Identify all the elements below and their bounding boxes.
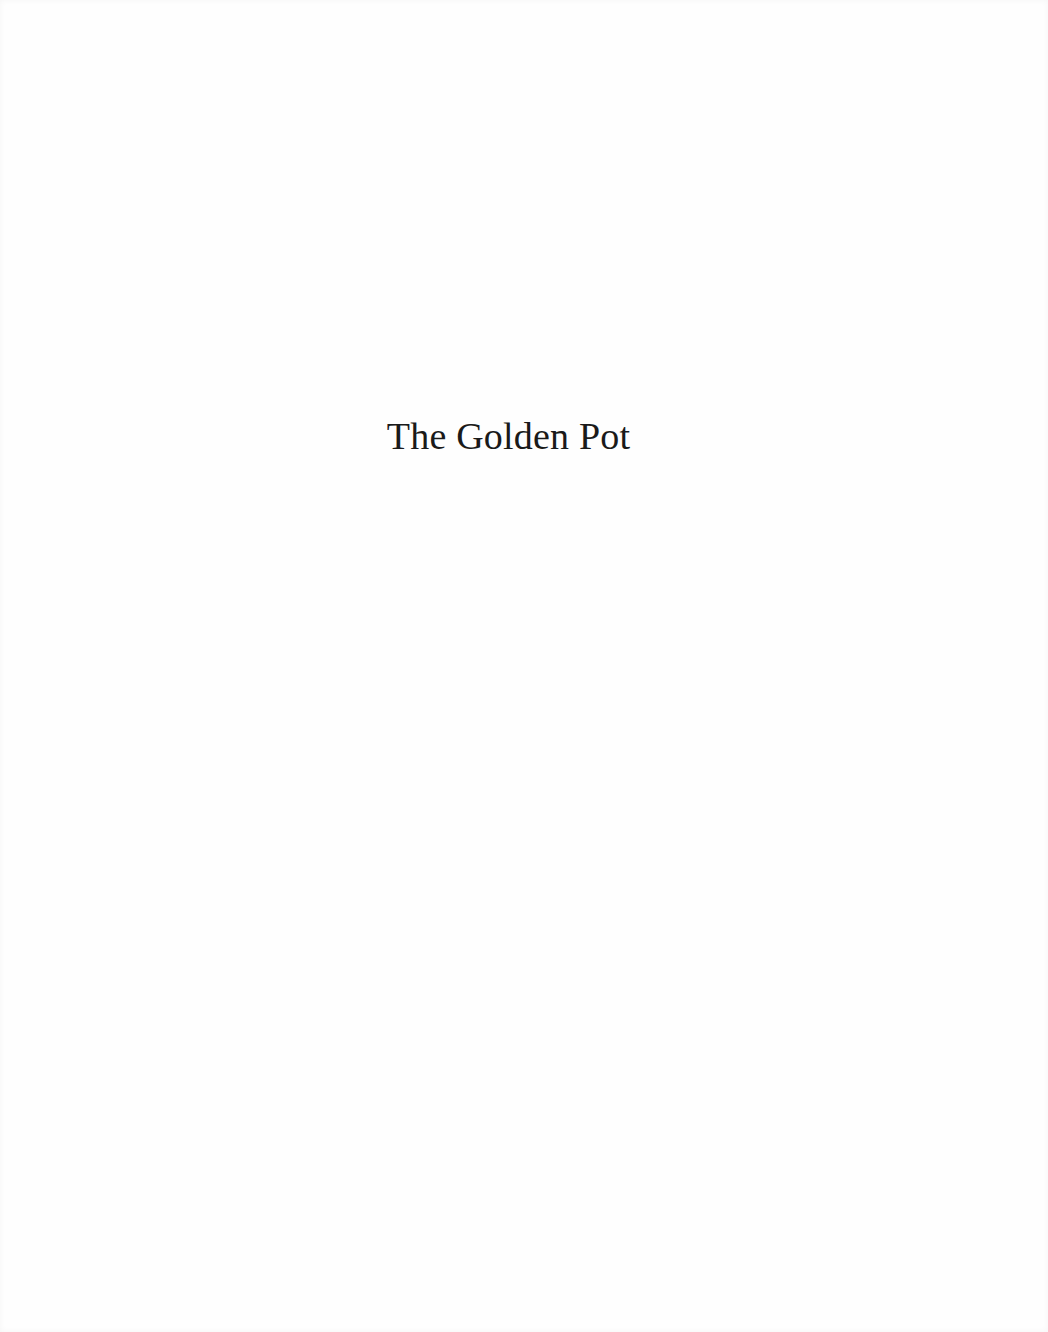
half-title: The Golden Pot bbox=[0, 412, 1017, 460]
book-page: The Golden Pot bbox=[0, 0, 1048, 1332]
